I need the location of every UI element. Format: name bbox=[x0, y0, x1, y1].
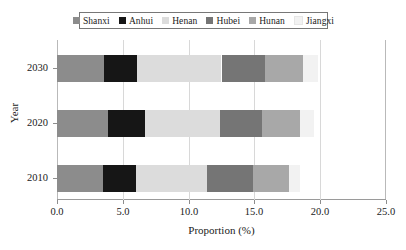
legend-label: Hubei bbox=[216, 16, 240, 26]
bar-segment-henan-2030 bbox=[137, 55, 221, 82]
x-axis-tick bbox=[123, 200, 124, 204]
legend-label: Jiangxi bbox=[306, 16, 334, 26]
bar-segment-hunan-2010 bbox=[253, 165, 289, 192]
bar-segment-shanxi-2020 bbox=[57, 110, 108, 137]
x-axis-title: Proportion (%) bbox=[57, 223, 386, 237]
x-axis-tick-label: 10.0 bbox=[166, 205, 212, 218]
x-axis-tick-label: 25.0 bbox=[363, 205, 406, 218]
y-axis-tick-label: 2010 bbox=[0, 171, 48, 184]
bar-segment-anhui-2020 bbox=[108, 110, 145, 137]
bar-segment-anhui-2010 bbox=[103, 165, 136, 192]
x-axis-tick-label: 15.0 bbox=[231, 205, 277, 218]
bar-segment-hunan-2030 bbox=[265, 55, 303, 82]
legend-entry-jiangxi[interactable]: Jiangxi bbox=[294, 16, 334, 26]
legend-entry-shanxi[interactable]: Shanxi bbox=[73, 16, 110, 26]
legend-swatch-icon bbox=[294, 16, 303, 25]
plot-right-spine bbox=[385, 40, 386, 200]
plot-bottom-spine bbox=[57, 199, 386, 200]
legend-swatch-icon bbox=[73, 17, 80, 24]
x-axis-tick-label: 5.0 bbox=[100, 205, 146, 218]
y-axis-title: Year bbox=[7, 78, 21, 148]
bar-segment-jiangxi-2010 bbox=[289, 165, 301, 192]
legend-label: Anhui bbox=[129, 16, 153, 26]
stacked-bar-chart: ShanxiAnhuiHenanHubeiHunanJiangxi Propor… bbox=[0, 0, 406, 250]
bar-segment-henan-2020 bbox=[145, 110, 220, 137]
x-axis-tick-label: 20.0 bbox=[297, 205, 343, 218]
plot-area bbox=[57, 40, 386, 200]
x-axis-tick bbox=[189, 200, 190, 204]
y-axis-tick bbox=[53, 68, 57, 69]
legend-entry-hubei[interactable]: Hubei bbox=[206, 16, 240, 26]
legend-swatch-icon bbox=[206, 17, 213, 24]
bar-segment-jiangxi-2030 bbox=[303, 55, 317, 82]
bar-segment-shanxi-2010 bbox=[57, 165, 103, 192]
bar-segment-hubei-2010 bbox=[207, 165, 253, 192]
x-axis-tick-label: 0.0 bbox=[34, 205, 80, 218]
gridline bbox=[320, 40, 321, 200]
legend-swatch-icon bbox=[162, 17, 169, 24]
legend-entry-anhui[interactable]: Anhui bbox=[119, 16, 153, 26]
x-axis-tick bbox=[57, 200, 58, 204]
y-axis-tick-label: 2020 bbox=[0, 116, 48, 129]
bar-segment-hubei-2020 bbox=[220, 110, 262, 137]
bar-segment-jiangxi-2020 bbox=[300, 110, 313, 137]
legend-entry-hunan[interactable]: Hunan bbox=[249, 16, 285, 26]
y-axis-tick-label: 2030 bbox=[0, 61, 48, 74]
bar-segment-hubei-2030 bbox=[222, 55, 265, 82]
chart-legend: ShanxiAnhuiHenanHubeiHunanJiangxi bbox=[79, 12, 328, 29]
bar-segment-henan-2010 bbox=[136, 165, 207, 192]
legend-swatch-icon bbox=[119, 17, 126, 24]
legend-label: Hunan bbox=[259, 16, 285, 26]
x-axis-tick bbox=[254, 200, 255, 204]
legend-label: Henan bbox=[172, 16, 197, 26]
x-axis-tick bbox=[320, 200, 321, 204]
y-axis-tick bbox=[53, 123, 57, 124]
y-axis-tick bbox=[53, 178, 57, 179]
bar-segment-anhui-2030 bbox=[104, 55, 137, 82]
bar-segment-shanxi-2030 bbox=[57, 55, 104, 82]
x-axis-tick bbox=[386, 200, 387, 204]
bar-segment-hunan-2020 bbox=[262, 110, 300, 137]
legend-swatch-icon bbox=[249, 17, 256, 24]
legend-entry-henan[interactable]: Henan bbox=[162, 16, 197, 26]
legend-label: Shanxi bbox=[83, 16, 110, 26]
